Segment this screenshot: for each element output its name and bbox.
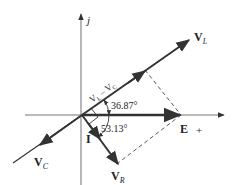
phasor-i: I [86, 123, 100, 146]
imaginary-axis-label: j [85, 14, 90, 26]
phasor-v-c: VC [13, 115, 82, 171]
angle-arcs: 36.87° 53.13° [98, 100, 138, 137]
i-label: I [86, 132, 91, 146]
angle-arc-upper [104, 100, 109, 115]
v-l-label: VL [194, 30, 208, 46]
phasor-v-l: VL [82, 30, 208, 115]
phasor-e: E [82, 115, 188, 136]
v-c-label: VC [34, 155, 49, 171]
phasor-diagram: j + VL VC VL – VC E [0, 0, 237, 185]
angle-label-36-87: 36.87° [111, 100, 138, 111]
v-r-label: VR [111, 169, 125, 185]
e-label: E [180, 122, 188, 136]
angle-label-53-13: 53.13° [101, 123, 128, 134]
real-axis-plus-label: + [196, 124, 202, 136]
